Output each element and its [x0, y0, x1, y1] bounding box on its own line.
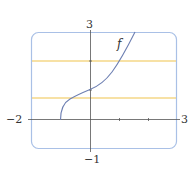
x-axis-left-label: −2 [6, 113, 22, 126]
x-axis-right-label: 3 [181, 113, 188, 126]
y-axis-bottom-label: −1 [84, 153, 100, 166]
function-graph: f 3 −1 −2 3 [0, 0, 196, 172]
y-axis-top-label: 3 [86, 18, 93, 31]
function-curve-f [61, 32, 136, 120]
curve-label-f: f [116, 37, 124, 51]
viewing-window-frame [32, 33, 177, 149]
